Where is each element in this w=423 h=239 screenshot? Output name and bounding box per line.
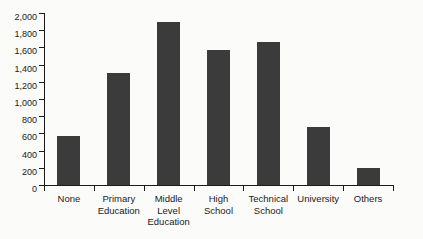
x-axis-line	[44, 185, 394, 186]
bar	[357, 168, 380, 185]
y-axis-tick-label-text: 1,000	[1, 99, 37, 108]
x-axis-tick	[393, 186, 394, 191]
y-axis-tick-label-text: 400	[1, 151, 37, 160]
y-axis-tick-label-text: 800	[1, 116, 37, 125]
x-axis-category-label-line: School	[231, 205, 305, 217]
x-axis-tick	[343, 186, 344, 191]
x-axis-tick	[293, 186, 294, 191]
y-axis-tick-label-text: 1,600	[1, 47, 37, 56]
bar	[157, 22, 180, 185]
x-axis-tick	[194, 186, 195, 191]
x-axis-tick	[94, 186, 95, 191]
y-axis-tick-label-text: 1,200	[1, 82, 37, 91]
x-axis-category-label-line: Education	[132, 216, 206, 228]
y-axis-tick-label-text: 2,000	[1, 13, 37, 22]
x-axis-tick	[243, 186, 244, 191]
x-axis-category-label-line: Others	[331, 193, 405, 205]
y-axis-tick-label-text: 600	[1, 133, 37, 142]
bar	[107, 73, 130, 185]
bar	[257, 42, 280, 185]
bars-layer	[44, 13, 394, 185]
bar	[207, 50, 230, 185]
x-axis-tick	[144, 186, 145, 191]
y-axis-tick-label-text: 200	[1, 168, 37, 177]
x-axis-tick	[44, 186, 45, 191]
bar	[307, 127, 330, 185]
bar-chart: 02004006008001,0001,2001,4001,6001,8002,…	[0, 0, 423, 239]
y-axis-tick-label-text: 1,400	[1, 65, 37, 74]
bar	[57, 136, 80, 185]
x-axis-category-label: Others	[331, 193, 405, 205]
y-axis-tick-label-text: 1,800	[1, 30, 37, 39]
